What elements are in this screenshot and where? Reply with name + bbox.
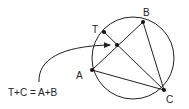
label-A: A [76,70,83,81]
point-T [102,30,106,34]
label-C: C [166,94,173,105]
point-A [90,68,94,72]
point-intersection [115,43,119,47]
point-B [141,20,145,24]
label-B: B [143,7,150,18]
equation-label: T+C = A+B [8,87,58,98]
label-T: T [92,24,98,35]
point-C [162,88,166,92]
diagram-canvas: T B A C T+C = A+B [0,0,189,109]
